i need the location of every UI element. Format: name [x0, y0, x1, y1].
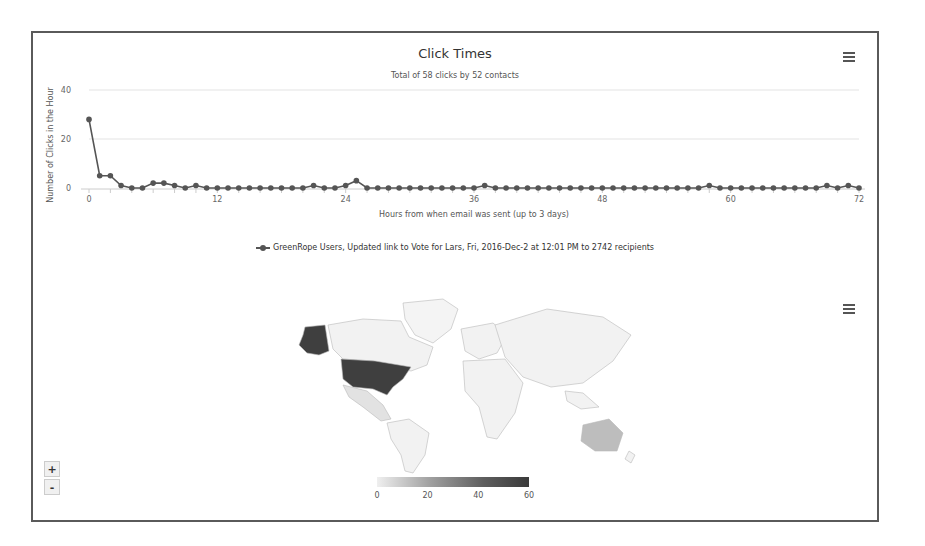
- data-point[interactable]: [546, 185, 552, 191]
- data-point[interactable]: [343, 183, 349, 189]
- data-point[interactable]: [108, 173, 114, 179]
- data-point[interactable]: [172, 183, 178, 189]
- chart-legend[interactable]: GreenRope Users, Updated link to Vote fo…: [33, 243, 877, 252]
- color-axis-tick: 20: [423, 491, 433, 500]
- new-zealand-region: [625, 451, 635, 463]
- data-point[interactable]: [771, 185, 777, 191]
- data-point[interactable]: [375, 185, 381, 191]
- x-tick-label: 24: [341, 195, 351, 204]
- data-point[interactable]: [193, 183, 199, 189]
- data-point[interactable]: [493, 185, 499, 191]
- x-tick-label: 0: [86, 195, 91, 204]
- color-axis-tick: 0: [374, 491, 379, 500]
- data-point[interactable]: [182, 185, 188, 191]
- data-point[interactable]: [386, 185, 392, 191]
- series-line: [89, 119, 859, 188]
- data-point[interactable]: [813, 185, 819, 191]
- data-point[interactable]: [610, 185, 616, 191]
- legend-marker-icon: [256, 244, 270, 252]
- color-axis-tick: 40: [473, 491, 483, 500]
- data-point[interactable]: [835, 185, 841, 191]
- world-map[interactable]: [283, 295, 653, 475]
- data-point[interactable]: [557, 185, 563, 191]
- data-point[interactable]: [471, 185, 477, 191]
- data-point[interactable]: [632, 185, 638, 191]
- data-point[interactable]: [418, 185, 424, 191]
- data-point[interactable]: [728, 185, 734, 191]
- world-map-svg: [283, 295, 653, 475]
- x-tick-label: 60: [726, 195, 736, 204]
- data-point[interactable]: [450, 185, 456, 191]
- data-point[interactable]: [247, 185, 253, 191]
- x-tick-label: 36: [469, 195, 479, 204]
- data-point[interactable]: [140, 185, 146, 191]
- data-point[interactable]: [803, 185, 809, 191]
- data-point[interactable]: [97, 173, 103, 179]
- data-point[interactable]: [642, 185, 648, 191]
- y-axis-title: Number of Clicks in the Hour: [46, 87, 55, 203]
- data-point[interactable]: [664, 185, 670, 191]
- data-point[interactable]: [86, 117, 92, 123]
- data-point[interactable]: [781, 185, 787, 191]
- data-point[interactable]: [600, 185, 606, 191]
- data-point[interactable]: [621, 185, 627, 191]
- data-point[interactable]: [589, 185, 595, 191]
- data-point[interactable]: [482, 183, 488, 189]
- legend-label: GreenRope Users, Updated link to Vote fo…: [273, 243, 654, 252]
- data-point[interactable]: [514, 185, 520, 191]
- data-point[interactable]: [674, 185, 680, 191]
- data-point[interactable]: [824, 183, 830, 189]
- data-point[interactable]: [257, 185, 263, 191]
- data-point[interactable]: [321, 185, 327, 191]
- data-point[interactable]: [129, 185, 135, 191]
- data-point[interactable]: [225, 185, 231, 191]
- data-point[interactable]: [354, 178, 360, 184]
- data-point[interactable]: [289, 185, 295, 191]
- x-tick-label: 12: [212, 195, 222, 204]
- southeast-asia-region: [565, 391, 599, 409]
- data-point[interactable]: [846, 183, 852, 189]
- data-point[interactable]: [696, 185, 702, 191]
- data-point[interactable]: [653, 185, 659, 191]
- data-point[interactable]: [760, 185, 766, 191]
- data-point[interactable]: [428, 185, 434, 191]
- data-point[interactable]: [739, 185, 745, 191]
- data-point[interactable]: [685, 185, 691, 191]
- color-axis-tick: 60: [524, 491, 534, 500]
- data-point[interactable]: [439, 185, 445, 191]
- data-point[interactable]: [407, 185, 413, 191]
- data-point[interactable]: [578, 185, 584, 191]
- data-point[interactable]: [150, 180, 156, 186]
- y-tick-label: 20: [61, 135, 71, 144]
- data-point[interactable]: [118, 183, 124, 189]
- data-point[interactable]: [311, 183, 317, 189]
- data-point[interactable]: [332, 185, 338, 191]
- greenland-region: [403, 299, 458, 343]
- data-point[interactable]: [706, 183, 712, 189]
- hamburger-menu-icon[interactable]: [843, 304, 855, 314]
- data-point[interactable]: [749, 185, 755, 191]
- y-tick-label: 40: [61, 86, 71, 95]
- africa-region: [463, 359, 523, 439]
- color-axis-labels: 0 20 40 60: [377, 491, 529, 503]
- data-point[interactable]: [717, 185, 723, 191]
- map-zoom-in-button[interactable]: +: [44, 461, 60, 477]
- data-point[interactable]: [236, 185, 242, 191]
- data-point[interactable]: [396, 185, 402, 191]
- data-point[interactable]: [268, 185, 274, 191]
- data-point[interactable]: [503, 185, 509, 191]
- data-point[interactable]: [204, 185, 210, 191]
- data-point[interactable]: [461, 185, 467, 191]
- map-zoom-out-button[interactable]: -: [44, 479, 60, 495]
- data-point[interactable]: [161, 180, 167, 186]
- data-point[interactable]: [792, 185, 798, 191]
- data-point[interactable]: [300, 185, 306, 191]
- data-point[interactable]: [364, 185, 370, 191]
- data-point[interactable]: [567, 185, 573, 191]
- data-point[interactable]: [279, 185, 285, 191]
- color-axis-gradient: [377, 477, 529, 487]
- data-point[interactable]: [856, 185, 862, 191]
- data-point[interactable]: [525, 185, 531, 191]
- data-point[interactable]: [215, 185, 221, 191]
- data-point[interactable]: [535, 185, 541, 191]
